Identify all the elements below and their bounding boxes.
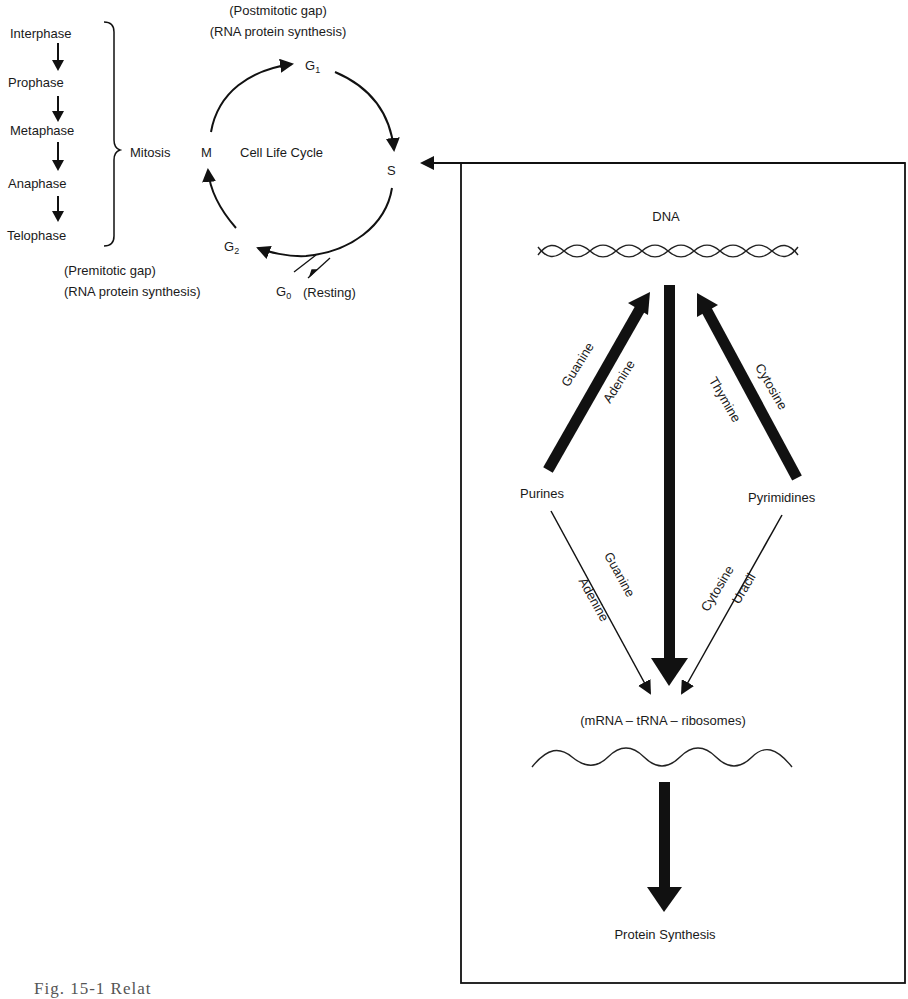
g1-note-line2: (RNA protein synthesis)	[210, 25, 347, 38]
phase-anaphase: Anaphase	[8, 177, 67, 190]
g1-note-line1: (Postmitotic gap)	[229, 4, 327, 17]
dna-helix-icon	[538, 245, 798, 257]
mitosis-brace	[104, 22, 120, 246]
protein-synthesis-label: Protein Synthesis	[614, 928, 715, 941]
figure-caption: Fig. 15-1 Relat	[34, 979, 151, 999]
synthesis-box	[461, 163, 905, 983]
node-g0: G0	[276, 285, 291, 301]
rna-strand-icon	[532, 748, 792, 767]
pyrimidines-label: Pyrimidines	[748, 491, 815, 504]
rna-to-protein-arrow	[647, 782, 682, 912]
cycle-center-label: Cell Life Cycle	[240, 146, 323, 159]
cell-cycle-ring	[208, 64, 394, 256]
dna-label: DNA	[652, 210, 679, 223]
node-g1: G1	[305, 59, 320, 75]
phase-prophase: Prophase	[8, 76, 64, 89]
rna-label: (mRNA – tRNA – ribosomes)	[580, 714, 745, 727]
node-g2: G2	[224, 240, 239, 256]
dna-to-rna-arrow	[651, 285, 688, 686]
node-m: M	[201, 146, 212, 159]
g2-note-line1: (Premitotic gap)	[64, 264, 156, 277]
phase-interphase: Interphase	[10, 27, 71, 40]
g0-arrows	[294, 255, 330, 278]
phase-telophase: Telophase	[7, 229, 66, 242]
g2-note-line2: (RNA protein synthesis)	[64, 285, 201, 298]
node-s: S	[387, 164, 396, 177]
purines-label: Purines	[520, 487, 564, 500]
g0-note: (Resting)	[303, 286, 356, 299]
pyrimidines-to-rna-arrow	[682, 515, 782, 693]
mitosis-label: Mitosis	[130, 146, 170, 159]
phase-metaphase: Metaphase	[10, 124, 74, 137]
